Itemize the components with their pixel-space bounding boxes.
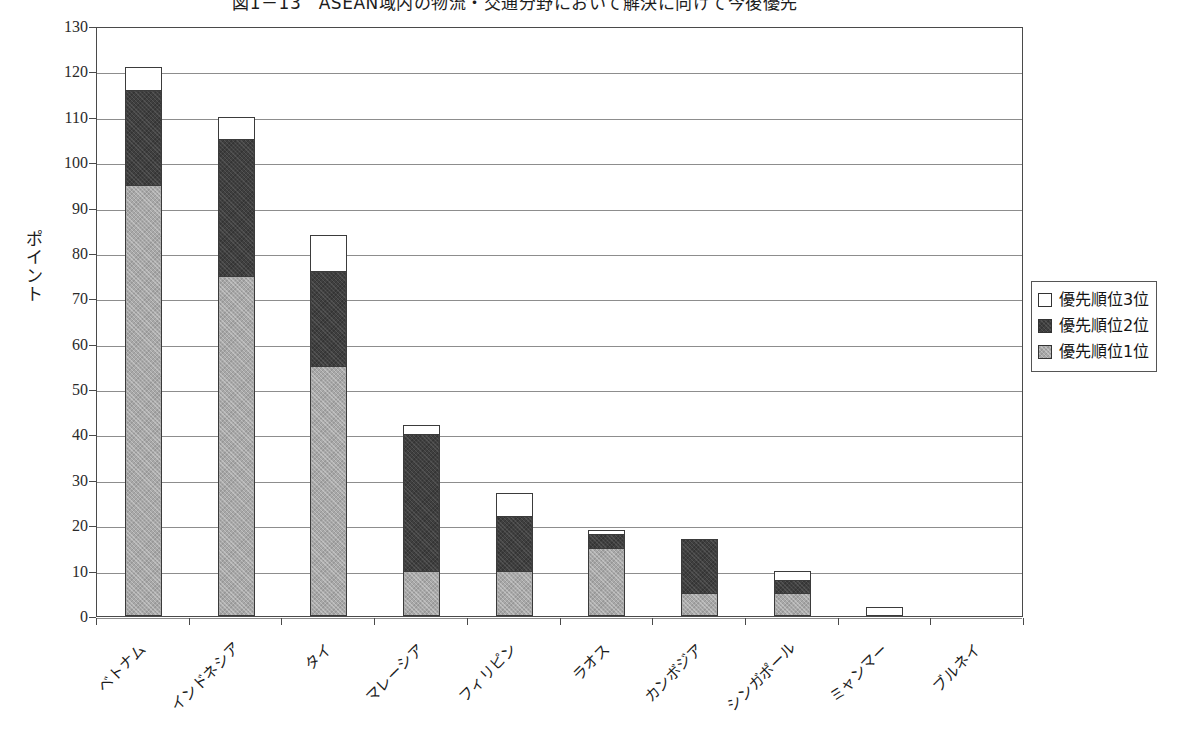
x-axis-label: タイ <box>258 638 335 715</box>
bar-segment <box>588 534 625 548</box>
bar-segment <box>218 139 255 275</box>
bar-segment <box>496 493 533 516</box>
y-tick-mark <box>89 118 96 119</box>
legend-label: 優先順位1位 <box>1059 344 1149 360</box>
bar-segment <box>681 593 718 616</box>
bar-segment <box>218 276 255 616</box>
bar-segment <box>310 271 347 366</box>
y-tick-label: 0 <box>42 609 88 625</box>
y-tick-mark <box>89 163 96 164</box>
bar-segment <box>310 235 347 271</box>
y-tick-label: 20 <box>42 518 88 534</box>
legend: 優先順位3位優先順位2位優先順位1位 <box>1031 281 1157 372</box>
bar-segment <box>774 593 811 616</box>
y-tick-label: 110 <box>42 110 88 126</box>
y-tick-label: 80 <box>42 246 88 262</box>
legend-swatch <box>1038 345 1052 359</box>
bar-segment <box>125 90 162 185</box>
legend-swatch <box>1038 319 1052 333</box>
x-tick-mark <box>374 618 375 625</box>
y-tick-mark <box>89 299 96 300</box>
x-axis-label: ミャンマー <box>814 638 891 715</box>
y-tick-mark <box>89 209 96 210</box>
bar-segment <box>125 185 162 616</box>
y-tick-mark <box>89 435 96 436</box>
y-tick-label: 70 <box>42 291 88 307</box>
bar-stack[interactable] <box>125 67 162 616</box>
legend-item[interactable]: 優先順位2位 <box>1038 313 1149 339</box>
y-tick-label: 60 <box>42 337 88 353</box>
x-tick-mark <box>838 618 839 625</box>
bar-segment <box>496 516 533 570</box>
bar-segment <box>774 580 811 594</box>
bar-segment <box>588 548 625 616</box>
bar-stack[interactable] <box>218 117 255 616</box>
y-tick-label: 100 <box>42 155 88 171</box>
legend-label: 優先順位3位 <box>1059 292 1149 308</box>
bar-segment <box>403 434 440 570</box>
y-tick-label: 40 <box>42 427 88 443</box>
chart-title: 図1－13 ASEAN域内の物流・交通分野において解決に向けて今後優先 <box>0 0 1030 14</box>
y-tick-label: 120 <box>42 64 88 80</box>
y-tick-label: 30 <box>42 473 88 489</box>
x-axis-label: フィリピン <box>443 638 520 715</box>
y-tick-label: 10 <box>42 564 88 580</box>
bar-segment <box>218 117 255 140</box>
bar-segment <box>496 571 533 616</box>
stacked-bar-chart: 図1－13 ASEAN域内の物流・交通分野において解決に向けて今後優先 ポイント… <box>0 0 1191 733</box>
bar-stack[interactable] <box>310 235 347 616</box>
x-tick-mark <box>281 618 282 625</box>
y-tick-mark <box>89 481 96 482</box>
bar-stack[interactable] <box>681 539 718 616</box>
y-tick-mark <box>89 390 96 391</box>
x-tick-mark <box>745 618 746 625</box>
x-tick-mark <box>189 618 190 625</box>
bar-stack[interactable] <box>496 493 533 616</box>
bar-segment <box>774 571 811 580</box>
y-tick-mark <box>89 617 96 618</box>
y-tick-mark <box>89 572 96 573</box>
x-tick-mark <box>467 618 468 625</box>
plot-area <box>96 27 1023 617</box>
x-axis-label: カンボジア <box>629 638 706 715</box>
bar-segment <box>403 425 440 434</box>
gridline <box>97 73 1022 74</box>
y-tick-mark <box>89 526 96 527</box>
y-tick-mark <box>89 27 96 28</box>
y-tick-label: 50 <box>42 382 88 398</box>
y-tick-mark <box>89 345 96 346</box>
x-tick-mark <box>96 618 97 625</box>
legend-item[interactable]: 優先順位1位 <box>1038 339 1149 365</box>
y-tick-mark <box>89 254 96 255</box>
x-tick-mark <box>930 618 931 625</box>
x-axis-label: ベトナム <box>73 638 150 715</box>
x-tick-mark <box>1023 618 1024 625</box>
x-tick-mark <box>652 618 653 625</box>
y-tick-label: 130 <box>42 19 88 35</box>
bar-stack[interactable] <box>403 425 440 616</box>
x-axis-label: インドネシア <box>165 638 242 715</box>
bar-segment <box>866 607 903 616</box>
x-axis-label: ラオス <box>536 638 613 715</box>
x-axis-label: シンガポール <box>722 638 799 715</box>
bar-stack[interactable] <box>774 571 811 616</box>
legend-item[interactable]: 優先順位3位 <box>1038 287 1149 313</box>
y-tick-label: 90 <box>42 201 88 217</box>
x-axis-label: ブルネイ <box>907 638 984 715</box>
bar-segment <box>681 539 718 593</box>
bar-segment <box>403 571 440 616</box>
bar-segment <box>310 366 347 616</box>
bar-segment <box>125 67 162 90</box>
legend-label: 優先順位2位 <box>1059 318 1149 334</box>
y-tick-mark <box>89 72 96 73</box>
legend-swatch <box>1038 293 1052 307</box>
y-axis-title-char: ン <box>22 267 46 285</box>
x-axis-label: マレーシア <box>351 638 428 715</box>
bar-stack[interactable] <box>866 607 903 616</box>
x-tick-mark <box>560 618 561 625</box>
bar-stack[interactable] <box>588 530 625 616</box>
